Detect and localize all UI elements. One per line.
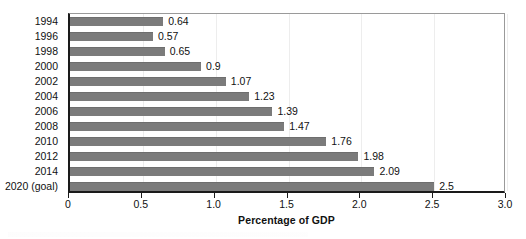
bar-value-label: 2.5 (439, 181, 454, 192)
bar-value-label: 1.47 (289, 121, 309, 132)
bar (70, 182, 434, 191)
bar-value-label: 0.64 (168, 16, 188, 27)
bar-value-label: 1.98 (363, 151, 383, 162)
y-axis-label: 2008 (0, 121, 63, 132)
bar (70, 152, 358, 161)
bar-value-label: 1.23 (254, 91, 274, 102)
y-axis-label: 2006 (0, 106, 63, 117)
bar-row: 1.76 (70, 135, 504, 149)
x-tick-label: 0.5 (134, 199, 149, 210)
y-axis-label: 2010 (0, 136, 63, 147)
y-axis-label: 2012 (0, 151, 63, 162)
bar (70, 167, 374, 176)
bar-chart-figure: 1994199619982000200220042006200820102012… (0, 0, 526, 239)
x-tick-label: 0 (65, 199, 71, 210)
bar-row: 0.57 (70, 30, 504, 44)
x-tick-label: 2.5 (425, 199, 440, 210)
bar-row: 2.09 (70, 165, 504, 179)
bar-row: 1.47 (70, 120, 504, 134)
bar (70, 92, 249, 101)
bar-value-label: 0.65 (170, 46, 190, 57)
bar-row: 1.07 (70, 75, 504, 89)
plot-area: 0.640.570.650.91.071.231.391.471.761.982… (68, 13, 505, 193)
bar-row: 2.5 (70, 180, 504, 194)
y-axis-label: 1998 (0, 46, 63, 57)
gridline-3.0 (507, 14, 508, 191)
x-tick-label: 2.0 (352, 199, 367, 210)
bar-value-label: 2.09 (379, 166, 399, 177)
bar (70, 137, 326, 146)
x-axis-title: Percentage of GDP (68, 214, 505, 226)
bar-row: 0.64 (70, 15, 504, 29)
bar-value-label: 0.57 (158, 31, 178, 42)
y-axis-label: 1994 (0, 16, 63, 27)
bar-row: 1.39 (70, 105, 504, 119)
y-axis-label: 2004 (0, 91, 63, 102)
bar-rows: 0.640.570.650.91.071.231.391.471.761.982… (70, 14, 504, 191)
y-axis-label: 2000 (0, 61, 63, 72)
page-edge-artifact (8, 232, 308, 237)
bar-value-label: 1.39 (277, 106, 297, 117)
bar (70, 107, 272, 116)
bar-row: 1.23 (70, 90, 504, 104)
bar (70, 47, 165, 56)
bar (70, 77, 226, 86)
bar-row: 1.98 (70, 150, 504, 164)
y-axis-label: 1996 (0, 31, 63, 42)
bar-row: 0.65 (70, 45, 504, 59)
bar-value-label: 1.76 (331, 136, 351, 147)
bar (70, 122, 284, 131)
x-tick-label: 3.0 (498, 199, 513, 210)
x-tick-label: 1.5 (279, 199, 294, 210)
y-axis-label: 2020 (goal) (0, 181, 63, 192)
bar-value-label: 0.9 (206, 61, 221, 72)
bar-value-label: 1.07 (231, 76, 251, 87)
y-axis-label: 2014 (0, 166, 63, 177)
bar (70, 17, 163, 26)
y-axis-category-labels: 1994199619982000200220042006200820102012… (0, 13, 63, 193)
y-axis-label: 2002 (0, 76, 63, 87)
x-tick-label: 1.0 (206, 199, 221, 210)
bar (70, 32, 153, 41)
bar (70, 62, 201, 71)
bar-row: 0.9 (70, 60, 504, 74)
